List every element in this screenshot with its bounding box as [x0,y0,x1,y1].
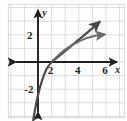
xtick-label-2: 2 [48,64,54,76]
ytick-label-2: 2 [27,29,33,41]
coordinate-plane-graph: 2 4 6 2 -2 x y [0,0,127,121]
xtick-label-4: 4 [75,64,81,76]
x-axis-label: x [114,64,120,75]
xtick-label-6: 6 [102,64,108,76]
y-axis-label: y [41,7,47,18]
ytick-label-negative-2: -2 [24,83,34,95]
graph-svg: 2 4 6 2 -2 x y [0,0,127,121]
